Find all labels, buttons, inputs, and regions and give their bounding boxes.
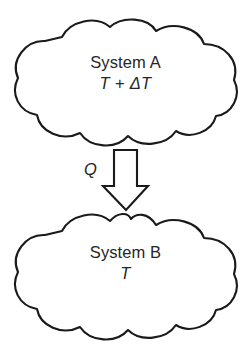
system-b-name-label: System B <box>0 243 251 262</box>
system-b-temperature-label: T <box>0 264 251 283</box>
diagram-canvas: System A T + ΔT Q System B T <box>0 0 251 350</box>
system-a-temperature-label: T + ΔT <box>0 74 251 93</box>
system-a-name-label: System A <box>0 53 251 72</box>
diagram-label-layer: System A T + ΔT Q System B T <box>0 0 251 350</box>
heat-flow-label: Q <box>84 160 97 179</box>
